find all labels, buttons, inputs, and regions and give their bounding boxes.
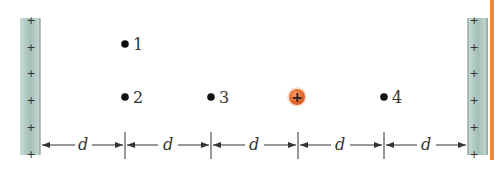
svg-text:+: + — [26, 67, 35, 80]
svg-text:2: 2 — [133, 88, 143, 107]
point-1: 1 — [121, 35, 143, 54]
svg-text:+: + — [469, 67, 478, 80]
svg-text:+: + — [469, 148, 478, 161]
svg-text:+: + — [26, 148, 35, 161]
accent-bar — [490, 0, 494, 160]
svg-text:+: + — [469, 121, 478, 134]
spacing-label-5: d — [421, 135, 431, 154]
spacing-label-3: d — [249, 135, 259, 154]
svg-text:+: + — [26, 14, 35, 27]
spacing-label-1: d — [78, 135, 88, 154]
right-plate — [468, 18, 488, 155]
point-3: 3 — [207, 88, 229, 107]
svg-text:1: 1 — [133, 35, 143, 54]
spacing-label-2: d — [163, 135, 173, 154]
diagram: + + + + + + + + + + + + 1 — [0, 0, 497, 172]
svg-text:+: + — [469, 41, 478, 54]
diagram-canvas: + + + + + + + + + + + + 1 — [0, 0, 497, 172]
point-2: 2 — [121, 88, 143, 107]
point-4: 4 — [380, 88, 402, 107]
svg-text:+: + — [26, 94, 35, 107]
svg-text:4: 4 — [392, 88, 402, 107]
svg-text:+: + — [469, 14, 478, 27]
positive-charge: + — [287, 87, 307, 107]
svg-text:+: + — [26, 41, 35, 54]
spacing-label-4: d — [335, 135, 345, 154]
left-plate — [20, 18, 40, 155]
svg-text:3: 3 — [219, 88, 229, 107]
svg-text:+: + — [469, 94, 478, 107]
plus-sign-icon: + — [291, 89, 303, 105]
svg-text:+: + — [26, 121, 35, 134]
